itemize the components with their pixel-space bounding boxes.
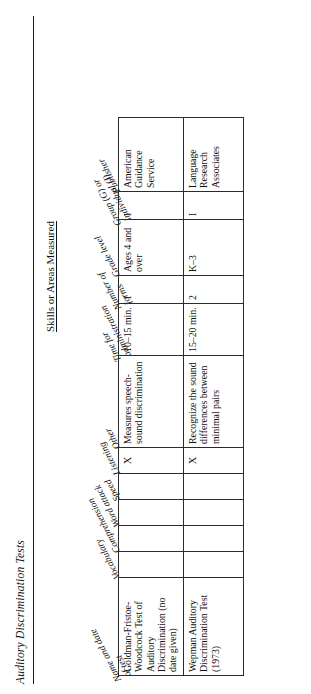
cell-other: Measures speech-sound discrimination bbox=[119, 356, 184, 448]
cell-vocabulary bbox=[119, 552, 184, 578]
cell-comprehension bbox=[119, 526, 184, 552]
title-divider bbox=[33, 16, 34, 684]
listening-mark: X bbox=[122, 457, 133, 465]
listening-mark: X bbox=[187, 457, 198, 465]
cell-grade-level: K–3 bbox=[183, 220, 243, 276]
publisher-text: American Guidance Service bbox=[122, 121, 156, 188]
cell-publisher: Language Research Associates bbox=[183, 118, 243, 192]
cell-other: Recognize the sound differences between … bbox=[183, 356, 243, 448]
cell-group-or-individual: I bbox=[119, 192, 184, 220]
grade-level-text: K–3 bbox=[187, 223, 198, 272]
auditory-discrimination-tests-table: Goldman-Fristoe-Woodcock Test of Auditor… bbox=[118, 117, 244, 676]
forms-text: 1 bbox=[122, 279, 133, 300]
group-heading-skills-or-areas-measured: Skills or Areas Measured bbox=[44, 221, 56, 332]
cell-forms: 1 bbox=[119, 276, 184, 304]
page-title: Auditory Discrimination Tests bbox=[14, 540, 26, 684]
cell-test-name: Goldman-Fristoe-Woodcock Test of Auditor… bbox=[119, 578, 184, 676]
publisher-text: Language Research Associates bbox=[187, 121, 221, 188]
cell-word-attack bbox=[119, 500, 184, 526]
rotated-page-container: Auditory Discrimination Tests Skills or … bbox=[0, 0, 311, 694]
document-page: Auditory Discrimination Tests Skills or … bbox=[0, 0, 311, 694]
cell-forms: 2 bbox=[183, 276, 243, 304]
test-name-text: Wepman Auditory Discrimination Test (197… bbox=[187, 581, 221, 672]
table-row: Wepman Auditory Discrimination Test (197… bbox=[183, 118, 243, 676]
table-row: Goldman-Fristoe-Woodcock Test of Auditor… bbox=[119, 118, 184, 676]
cell-speed bbox=[119, 474, 184, 500]
forms-text: 2 bbox=[187, 279, 198, 300]
cell-group-or-individual: I bbox=[183, 192, 243, 220]
cell-publisher: American Guidance Service bbox=[119, 118, 184, 192]
group-or-individual-text: I bbox=[122, 195, 133, 216]
group-or-individual-text: I bbox=[187, 195, 198, 216]
cell-time: 10–15 min. bbox=[119, 304, 184, 356]
time-text: 10–15 min. bbox=[122, 307, 133, 352]
cell-time: 15–20 min. bbox=[183, 304, 243, 356]
cell-comprehension bbox=[183, 526, 243, 552]
other-text: Measures speech-sound discrimination bbox=[122, 359, 145, 444]
other-text: Recognize the sound differences between … bbox=[187, 359, 221, 444]
cell-word-attack bbox=[183, 500, 243, 526]
cell-listening: X bbox=[119, 448, 184, 474]
cell-test-name: Wepman Auditory Discrimination Test (197… bbox=[183, 578, 243, 676]
grade-level-text: Ages 4 and over bbox=[122, 223, 145, 272]
cell-grade-level: Ages 4 and over bbox=[119, 220, 184, 276]
cell-speed bbox=[183, 474, 243, 500]
cell-vocabulary bbox=[183, 552, 243, 578]
cell-listening: X bbox=[183, 448, 243, 474]
test-name-text: Goldman-Fristoe-Woodcock Test of Auditor… bbox=[122, 581, 179, 672]
time-text: 15–20 min. bbox=[187, 307, 198, 352]
